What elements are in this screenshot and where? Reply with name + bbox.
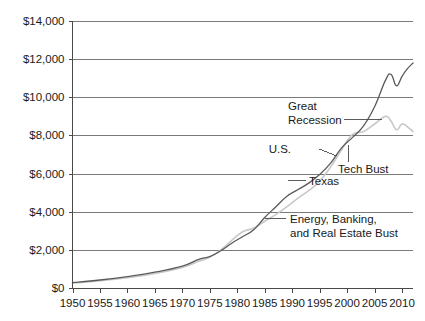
annotation-energy-bust-line1: Energy, Banking, [290,213,377,225]
x-tick-label: 1985 [252,297,278,309]
line-chart: $0$2,000$4,000$6,000$8,000$10,000$12,000… [0,0,425,321]
x-tick-label: 1990 [279,297,305,309]
chart-background [0,0,425,321]
x-tick-label: 2010 [389,297,415,309]
y-tick-label: $0 [52,282,65,294]
x-tick-label: 1970 [170,297,196,309]
x-tick-label: 1960 [115,297,141,309]
y-tick-label: $14,000 [23,15,65,27]
y-tick-label: $10,000 [23,91,65,103]
annotation-tech-bust: Tech Bust [338,163,389,175]
y-tick-label: $2,000 [29,244,64,256]
x-tick-label: 1965 [142,297,168,309]
annotation-great-recession-line1: Great [288,100,318,112]
x-tick-label: 1975 [197,297,223,309]
x-tick-label: 1980 [224,297,250,309]
x-tick-label: 2000 [334,297,360,309]
x-tick-label: 2005 [362,297,388,309]
y-tick-label: $8,000 [29,129,64,141]
y-tick-label: $4,000 [29,206,64,218]
annotation-energy-bust-line2: and Real Estate Bust [290,227,399,239]
y-tick-label: $12,000 [23,53,65,65]
annotation-us-label: U.S. [269,143,291,155]
chart-container: $0$2,000$4,000$6,000$8,000$10,000$12,000… [0,0,425,321]
annotation-texas-label: Texas [309,175,339,187]
x-tick-label: 1995 [307,297,333,309]
y-tick-label: $6,000 [29,168,64,180]
annotation-great-recession-line2: Recession [288,114,342,126]
x-tick-label: 1955 [87,297,113,309]
x-tick-label: 1950 [60,297,86,309]
